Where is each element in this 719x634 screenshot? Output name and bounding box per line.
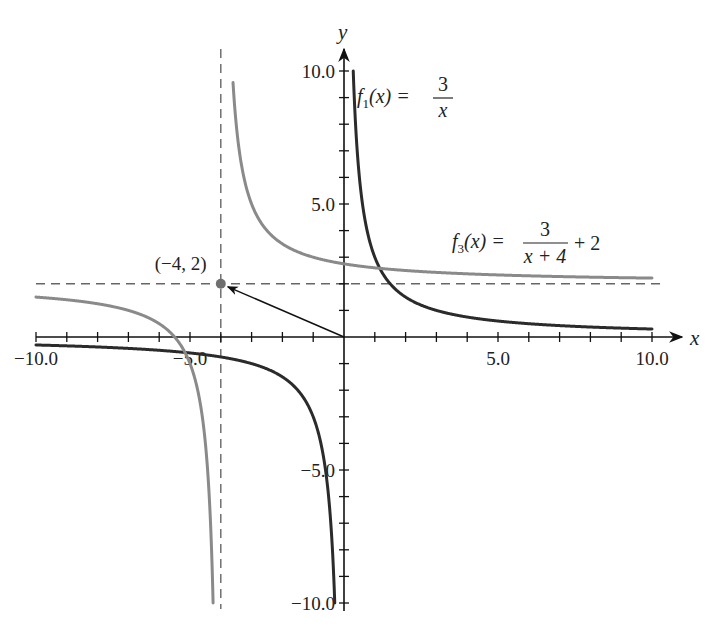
x-tick-label: 10.0 — [635, 348, 668, 369]
f3-arg: (x) = — [464, 230, 505, 253]
f1-curve-right-branch — [353, 71, 652, 329]
f3-equation-label: f3(x) = 3 x + 4 + 2 — [452, 218, 600, 267]
svg-text:f3(x) =: f3(x) = — [452, 230, 505, 256]
y-tick-label: −10.0 — [291, 593, 335, 614]
x-tick-label: 5.0 — [486, 348, 510, 369]
f3-constant: + 2 — [574, 232, 600, 254]
axes: x y −10.0−5.05.010.0 10.05.0−5.0−10.0 — [14, 20, 700, 614]
asymptotes — [36, 49, 660, 609]
translation-arrow — [228, 287, 344, 337]
y-tick-label: −5.0 — [301, 460, 335, 481]
y-tick-label: 10.0 — [302, 61, 335, 82]
f1-curve-left-branch — [36, 345, 335, 603]
f1-equation-label: f1(x) = 3 x — [357, 73, 453, 121]
f3-curve-left-branch — [36, 297, 213, 603]
chart-figure: x y −10.0−5.05.010.0 10.05.0−5.0−10.0 (−… — [0, 0, 719, 634]
x-tick-label: −10.0 — [14, 348, 58, 369]
x-axis-label: x — [689, 326, 700, 350]
f1-arg: (x) = — [369, 85, 410, 108]
point-marker — [216, 279, 226, 289]
y-axis-label: y — [336, 20, 348, 44]
f1-numerator: 3 — [438, 73, 448, 95]
f3-numerator: 3 — [540, 218, 550, 240]
svg-text:f1(x) =: f1(x) = — [357, 85, 410, 111]
y-tick-label: 5.0 — [311, 194, 335, 215]
f3-denominator: x + 4 — [523, 245, 566, 267]
point-label: (−4, 2) — [155, 253, 207, 275]
f1-denominator: x — [438, 99, 448, 121]
x-tick-labels: −10.0−5.05.010.0 — [14, 348, 669, 369]
